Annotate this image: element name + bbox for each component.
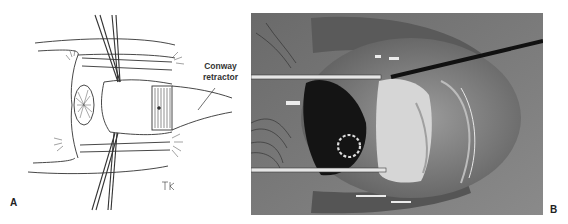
panel-label-b: B bbox=[550, 204, 557, 215]
panel-label-a: A bbox=[10, 197, 17, 208]
panel-a-illustration: Conway retractor bbox=[0, 0, 250, 224]
eye-surgery-illustration bbox=[0, 0, 250, 224]
conway-retractor-label: Conway retractor bbox=[203, 61, 238, 83]
callout-line-2: retractor bbox=[203, 72, 238, 83]
panel-b-photograph bbox=[251, 13, 543, 215]
surgical-photo bbox=[251, 13, 543, 215]
callout-line-1: Conway bbox=[203, 61, 238, 72]
